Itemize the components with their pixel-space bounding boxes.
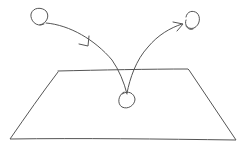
bounce-diagram: [0, 0, 241, 153]
ground-plane: [10, 69, 236, 140]
ball-end-circle: [185, 11, 199, 29]
ball-start-circle: [31, 8, 48, 25]
outgoing-trajectory: [127, 24, 182, 93]
incoming-arrow-icon: [79, 36, 89, 46]
incoming-trajectory: [46, 23, 127, 94]
diagram-svg: [0, 0, 241, 153]
